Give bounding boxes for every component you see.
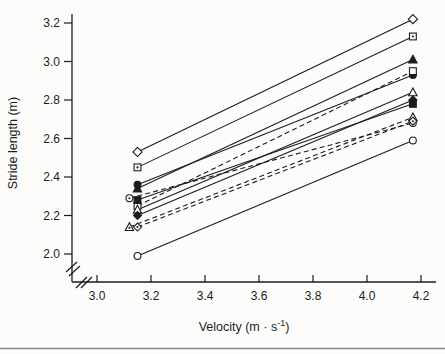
marker-triangle-filled [409,55,417,63]
series-line-subject-triangle-open [138,92,413,209]
marker-diamond-open [408,15,417,24]
marker-diamond-dot-center-dot [412,120,414,122]
series-line-subject-diamond-dot [138,121,413,227]
y-tick-label: 2.0 [43,247,60,261]
chart-canvas: 2.02.22.42.62.83.03.23.03.23.43.63.84.04… [0,0,445,354]
x-tick-label: 3.4 [197,289,214,303]
series-line-subject-square-filled [138,104,413,200]
x-axis-title: Velocity (m · s-1) [199,318,290,334]
marker-circle-dot-center-dot [128,197,130,199]
series-line-subject-triangle-filled [138,60,413,189]
marker-circle-filled [134,181,141,188]
marker-diamond-dot-center-dot [136,226,138,228]
x-tick-label: 4.0 [359,289,376,303]
marker-triangle-dot [125,223,133,231]
marker-square-dot-center-dot [136,166,138,168]
y-tick-label: 3.0 [43,55,60,69]
marker-triangle-dot-center-dot [128,227,130,229]
stride-length-figure: 2.02.22.42.62.83.03.23.03.23.43.63.84.04… [0,0,445,354]
y-tick-label: 2.2 [43,209,60,223]
y-tick-label: 3.2 [43,16,60,30]
marker-circle-open [410,137,417,144]
marker-square-filled [134,197,141,204]
x-tick-label: 3.8 [305,289,322,303]
y-tick-label: 2.6 [43,132,60,146]
x-tick-label: 3.0 [89,289,106,303]
marker-triangle-open [409,88,417,96]
y-tick-label: 2.8 [43,93,60,107]
marker-square-open [410,68,417,75]
series-line-subject-square-dot [138,36,413,167]
marker-diamond-open [133,147,142,156]
x-tick-label: 3.2 [143,289,160,303]
series-line-subject-diamond-open [138,19,413,152]
marker-circle-open [134,253,141,260]
marker-square-dot-center-dot [412,35,414,37]
y-axis-title: Stride length (m) [6,97,20,189]
x-tick-label: 3.6 [251,289,268,303]
series-line-subject-circle-filled [138,75,413,185]
y-tick-label: 2.4 [43,170,60,184]
x-tick-label: 4.2 [413,289,430,303]
